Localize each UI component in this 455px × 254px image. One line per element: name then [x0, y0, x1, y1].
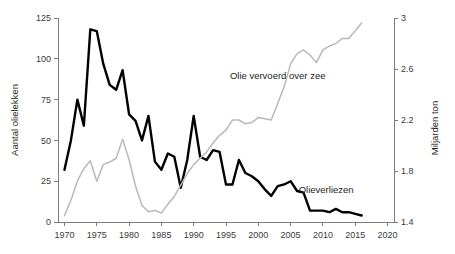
y2-tick-label: 2.6 [401, 64, 414, 74]
x-tick-label: 2010 [313, 230, 333, 240]
x-tick-label: 1995 [216, 230, 236, 240]
y-tick-label: 0 [46, 217, 51, 227]
y-tick-label: 25 [41, 176, 51, 186]
series-annotation-label: Olie vervoerd over zee [230, 70, 326, 81]
x-tick-label: 1975 [87, 230, 107, 240]
x-tick-label: 1970 [54, 230, 74, 240]
y2-axis-title: Miljarden ton [429, 101, 440, 155]
y2-tick-label: 1.4 [401, 217, 414, 227]
y2-tick-label: 3 [401, 13, 406, 23]
x-tick-label: 1985 [151, 230, 171, 240]
x-tick-label: 2005 [281, 230, 301, 240]
x-axis-ticks: 1970197519801985199019952000200520102015… [54, 222, 397, 240]
line-chart: 0255075100125 1.41.82.22.63 197019751980… [0, 0, 455, 254]
series-annotation-label: Olieverliezen [299, 184, 354, 195]
x-tick-label: 2015 [345, 230, 365, 240]
y2-tick-label: 1.8 [401, 166, 414, 176]
right-axis-ticks: 1.41.82.22.63 [394, 13, 414, 227]
y-tick-label: 75 [41, 95, 51, 105]
series-annotations: Olie vervoerd over zeeOlieverliezen [230, 70, 354, 195]
y-tick-label: 50 [41, 136, 51, 146]
x-tick-label: 2000 [248, 230, 268, 240]
y-tick-label: 100 [36, 54, 51, 64]
left-axis-ticks: 0255075100125 [36, 13, 58, 227]
y-axis-title: Aantal olielekken [9, 84, 20, 156]
x-tick-label: 2020 [378, 230, 398, 240]
x-tick-label: 1980 [119, 230, 139, 240]
y-tick-label: 125 [36, 13, 51, 23]
x-tick-label: 1990 [184, 230, 204, 240]
y2-tick-label: 2.2 [401, 115, 414, 125]
chart-container: 0255075100125 1.41.82.22.63 197019751980… [0, 0, 455, 254]
